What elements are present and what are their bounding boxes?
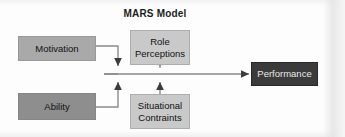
mars-model-diagram: MARS Model Motivation Ab [0,0,345,137]
node-ability-label: Ability [44,101,69,113]
node-role-perceptions-label-line2: Perceptions [135,48,185,60]
node-performance[interactable]: Performance [251,62,318,86]
node-motivation[interactable]: Motivation [18,36,96,61]
node-motivation-label: Motivation [35,43,78,55]
node-situational-constraints-label-line1: Situational [138,100,182,112]
connector-ability-to-junction [96,82,118,107]
node-situational-constraints[interactable]: Situational Contraints [130,94,190,129]
node-ability[interactable]: Ability [18,93,96,120]
page-edge-shading-bottom [0,130,345,137]
node-performance-label: Performance [257,68,311,80]
diagram-title: MARS Model [0,8,310,19]
node-situational-constraints-label-line2: Contraints [138,112,182,124]
page-edge-shading-right [323,0,345,137]
node-role-perceptions-label-line1: Role [135,36,185,48]
node-role-perceptions[interactable]: Role Perceptions [130,30,190,65]
node-situational-constraints-label: Situational Contraints [138,100,182,123]
connector-motivation-to-junction [96,46,118,66]
node-role-perceptions-label: Role Perceptions [135,36,185,59]
page-edge-shading-top [0,0,345,6]
